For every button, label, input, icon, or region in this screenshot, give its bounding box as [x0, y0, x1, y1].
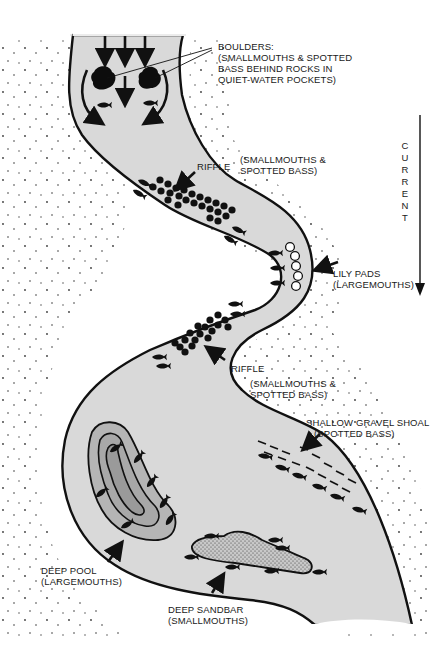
current-arrow	[415, 115, 425, 296]
riffle-middle-label: (SMALLMOUTHS & SPOTTED BASS)	[250, 378, 336, 400]
boulders-label: BOULDERS: (SMALLMOUTHS & SPOTTED BASS BE…	[218, 41, 352, 85]
gravel-shoal-label: SHALLOW GRAVEL SHOAL (SPOTTED BASS)	[306, 417, 429, 439]
river-diagram	[0, 0, 447, 659]
riffle-top-name: RIFFLE	[197, 161, 230, 172]
current-label: C U R R E N T	[400, 140, 410, 224]
lily-pads-label: LILY PADS (LARGEMOUTHS)	[333, 268, 414, 290]
riffle-middle-name: RIFFLE	[231, 363, 264, 374]
deep-pool-label: DEEP POOL (LARGEMOUTHS)	[41, 565, 122, 587]
riffle-top-label: (SMALLMOUTHS & SPOTTED BASS)	[240, 154, 326, 176]
deep-sandbar-label: DEEP SANDBAR (SMALLMOUTHS)	[168, 604, 248, 626]
